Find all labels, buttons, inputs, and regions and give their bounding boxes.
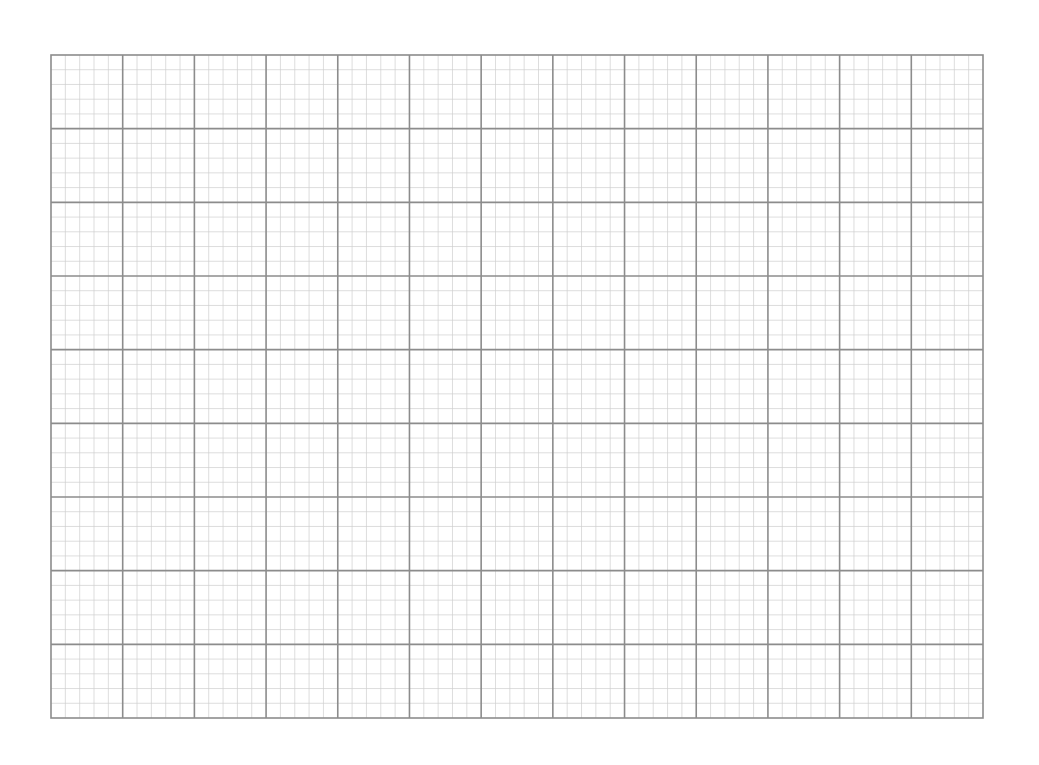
graph-paper-grid: [50, 54, 984, 719]
minor-grid-lines: [51, 55, 983, 718]
major-grid-lines: [51, 55, 983, 718]
grid-border: [51, 55, 983, 718]
